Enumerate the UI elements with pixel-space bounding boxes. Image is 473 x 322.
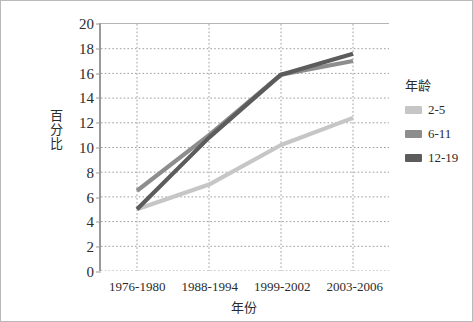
legend-items: 2-56-1112-19 bbox=[405, 103, 471, 164]
y-tick-mark bbox=[96, 222, 101, 223]
y-tick-mark bbox=[96, 148, 101, 149]
x-tick-label: 1999-2002 bbox=[254, 280, 310, 293]
legend-swatch-icon bbox=[405, 130, 422, 138]
legend: 年龄 2-56-1112-19 bbox=[405, 75, 471, 175]
legend-swatch-icon bbox=[405, 106, 422, 114]
y-tick-mark bbox=[96, 247, 101, 248]
x-axis-title: 年份 bbox=[99, 297, 389, 316]
legend-item-label: 6-11 bbox=[428, 127, 451, 140]
y-tick-mark bbox=[96, 197, 101, 198]
legend-title: 年龄 bbox=[405, 75, 471, 94]
legend-item-label: 2-5 bbox=[428, 103, 445, 116]
y-tick-mark bbox=[96, 272, 101, 273]
x-tick-label: 1988-1994 bbox=[182, 280, 238, 293]
legend-item[interactable]: 6-11 bbox=[405, 127, 471, 140]
y-tick-mark bbox=[96, 48, 101, 49]
y-tick-mark bbox=[96, 98, 101, 99]
x-tick-label: 1976-1980 bbox=[109, 280, 165, 293]
series-line-6-11 bbox=[137, 61, 353, 191]
x-tick-label: 2003-2006 bbox=[327, 280, 383, 293]
legend-item[interactable]: 2-5 bbox=[405, 103, 471, 116]
y-tick-mark bbox=[96, 73, 101, 74]
chart-figure: 百分比 024681012141618201976-19801988-19941… bbox=[0, 0, 473, 322]
legend-item-label: 12-19 bbox=[428, 151, 458, 164]
plot-area: 024681012141618201976-19801988-19941999-… bbox=[99, 23, 389, 271]
y-tick-mark bbox=[96, 172, 101, 173]
y-axis-title: 百分比 bbox=[46, 109, 66, 151]
legend-item[interactable]: 12-19 bbox=[405, 151, 471, 164]
series-lines bbox=[101, 24, 389, 271]
legend-swatch-icon bbox=[405, 154, 422, 162]
y-tick-mark bbox=[96, 123, 101, 124]
y-tick-mark bbox=[96, 24, 101, 25]
